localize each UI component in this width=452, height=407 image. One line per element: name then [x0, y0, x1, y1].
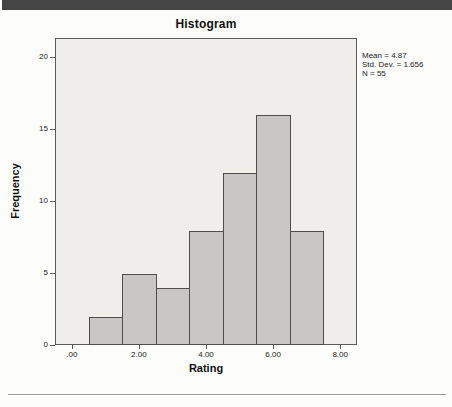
y-tick-label: 10: [26, 197, 48, 205]
histogram-bar: [290, 231, 325, 345]
y-tick-mark: [50, 57, 55, 58]
y-tick-mark: [50, 201, 55, 202]
histogram-bar: [122, 274, 157, 345]
stats-annotation: Mean = 4.87 Std. Dev. = 1.656 N = 55: [362, 51, 450, 78]
output-header-bar: [2, 0, 452, 10]
bottom-divider: [8, 394, 446, 395]
histogram-bar: [156, 288, 191, 345]
x-tick-mark: [273, 345, 274, 349]
y-axis-label: Frequency: [9, 156, 21, 226]
chart-title: Histogram: [55, 17, 357, 32]
histogram-bar: [189, 231, 224, 345]
x-tick-label: 4.00: [191, 351, 221, 359]
histogram-bar: [223, 173, 258, 345]
x-tick-label: 6.00: [258, 351, 288, 359]
stat-std-dev: Std. Dev. = 1.656: [362, 60, 450, 69]
y-tick-mark: [50, 129, 55, 130]
x-tick-label: 2.00: [124, 351, 154, 359]
x-tick-label: .00: [57, 351, 87, 359]
y-tick-label: 20: [26, 53, 48, 61]
y-tick-label: 5: [26, 269, 48, 277]
y-tick-label: 0: [26, 341, 48, 349]
x-axis-label: Rating: [55, 362, 357, 374]
x-tick-mark: [139, 345, 140, 349]
x-tick-mark: [206, 345, 207, 349]
histogram-bar: [256, 115, 291, 345]
histogram-bar: [89, 317, 124, 345]
x-tick-label: 8.00: [325, 351, 355, 359]
y-tick-label: 15: [26, 125, 48, 133]
plot-area: [55, 38, 357, 345]
y-tick-mark: [50, 345, 55, 346]
y-tick-mark: [50, 273, 55, 274]
stat-mean: Mean = 4.87: [362, 51, 450, 60]
x-tick-mark: [72, 345, 73, 349]
stat-n: N = 55: [362, 69, 450, 78]
x-tick-mark: [340, 345, 341, 349]
